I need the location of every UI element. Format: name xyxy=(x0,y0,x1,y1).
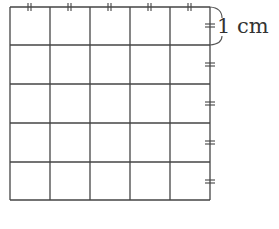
grid-diagram: 1 cm xyxy=(0,0,279,229)
unit-label: 1 cm xyxy=(217,14,269,38)
grid-lines xyxy=(10,7,210,200)
